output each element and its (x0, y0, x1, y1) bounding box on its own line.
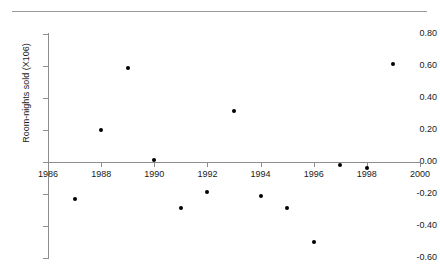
x-tick-label: 2000 (400, 169, 440, 179)
y-tick-label: -0.40 (397, 221, 437, 230)
x-tick-label: 1996 (294, 169, 334, 179)
y-tick-label: 0.80 (397, 29, 437, 38)
y-tick-label: 0.60 (397, 61, 437, 70)
x-tick-mark (207, 162, 208, 167)
header-divider (12, 11, 427, 12)
y-tick-mark (43, 130, 48, 131)
y-tick-mark (43, 98, 48, 99)
y-tick-mark (43, 34, 48, 35)
y-tick-mark (43, 226, 48, 227)
y-tick-mark (43, 162, 48, 163)
data-point (312, 240, 316, 244)
y-tick-label: 0.20 (397, 125, 437, 134)
y-tick-mark (43, 66, 48, 67)
y-tick-label: 0.40 (397, 93, 437, 102)
data-point (285, 206, 289, 210)
data-point (232, 109, 236, 113)
x-tick-mark (261, 162, 262, 167)
y-tick-label: -0.60 (397, 253, 437, 262)
x-tick-label: 1992 (187, 169, 227, 179)
y-tick-label: -0.20 (397, 189, 437, 198)
y-tick-mark (43, 258, 48, 259)
data-point (99, 128, 103, 132)
header-ghost-text (95, 0, 345, 8)
x-tick-label: 1994 (241, 169, 281, 179)
data-point (391, 62, 395, 66)
x-tick-mark (154, 162, 155, 167)
y-tick-mark (43, 194, 48, 195)
x-tick-mark (101, 162, 102, 167)
x-axis-line (48, 162, 421, 163)
data-point (126, 66, 130, 70)
data-point (73, 197, 77, 201)
x-tick-mark (420, 162, 421, 167)
y-tick-label: 0.00 (397, 157, 437, 166)
x-tick-label: 1990 (134, 169, 174, 179)
data-point (205, 190, 209, 194)
data-point (259, 194, 263, 198)
x-tick-label: 1988 (81, 169, 121, 179)
x-tick-label: 1998 (347, 169, 387, 179)
y-axis-title: Room-nights sold (X106) (21, 18, 31, 168)
y-axis-line (48, 33, 49, 259)
x-tick-label: 1986 (28, 169, 68, 179)
x-tick-mark (314, 162, 315, 167)
data-point (338, 163, 342, 167)
data-point (179, 206, 183, 210)
